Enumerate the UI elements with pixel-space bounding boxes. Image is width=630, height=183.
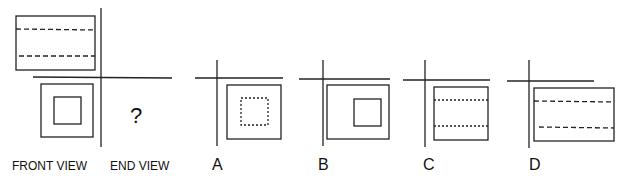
option-a-label[interactable]: A xyxy=(212,156,223,174)
option-b-figure[interactable] xyxy=(299,60,390,146)
option-d-figure[interactable] xyxy=(507,60,614,148)
top-view xyxy=(16,16,95,70)
projection-axes xyxy=(33,8,172,147)
option-c-label[interactable]: C xyxy=(423,156,435,174)
front-view-label: FRONT VIEW xyxy=(12,159,87,173)
option-a-figure[interactable] xyxy=(195,60,283,146)
front-view-shape xyxy=(41,84,93,137)
option-c-figure[interactable] xyxy=(403,60,490,147)
option-d-label[interactable]: D xyxy=(529,156,541,174)
option-b-label[interactable]: B xyxy=(318,156,329,174)
end-view-label: END VIEW xyxy=(110,159,169,173)
unknown-end-view-marker: ? xyxy=(130,103,142,129)
